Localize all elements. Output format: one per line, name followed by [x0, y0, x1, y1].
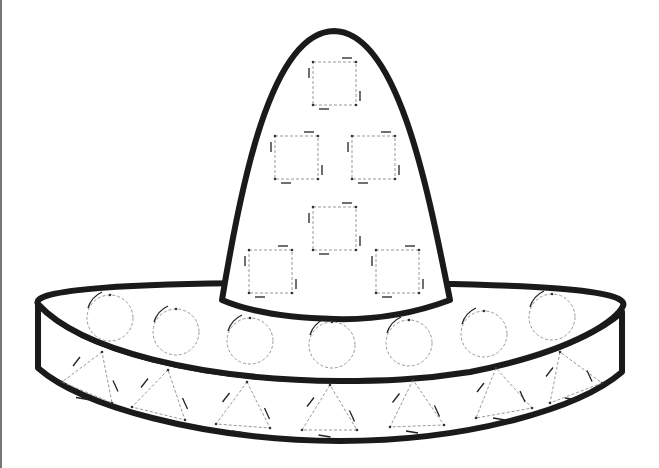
hat-crown [222, 31, 450, 319]
sombrero-drawing [0, 0, 659, 468]
